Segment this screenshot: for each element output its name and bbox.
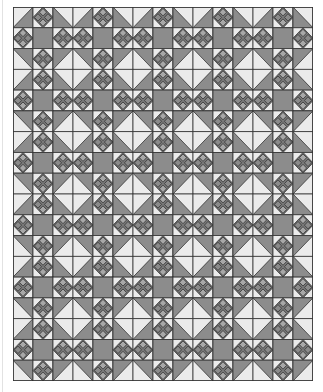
- quilt-cell-edge-diamond: [173, 28, 193, 49]
- quilt-cell-edge-diamond: [153, 69, 173, 90]
- quilt-cell-edge-diamond: [253, 339, 273, 360]
- quilt-cell-edge-diamond: [213, 111, 233, 132]
- quilt-cell-hst-br: [173, 49, 193, 70]
- quilt-cell-hst-tr: [233, 319, 253, 340]
- quilt-cell-hst-tr: [293, 319, 313, 340]
- quilt-cell-edge-diamond: [93, 7, 113, 28]
- quilt-cell-center-square: [153, 339, 173, 360]
- quilt-cell-edge-diamond: [93, 132, 113, 153]
- quilt-cell-edge-diamond: [293, 90, 313, 111]
- quilt-cell-center-square: [213, 339, 233, 360]
- quilt-cell-hst-bl: [73, 173, 93, 194]
- quilt-cell-edge-diamond: [273, 360, 293, 381]
- quilt-cell-hst-tl: [193, 7, 213, 28]
- quilt-cell-edge-diamond: [233, 90, 253, 111]
- quilt-cell-hst-tl: [253, 7, 273, 28]
- quilt-cell-edge-diamond: [213, 49, 233, 70]
- quilt-cell-edge-diamond: [273, 298, 293, 319]
- quilt-cell-edge-diamond: [53, 339, 73, 360]
- quilt-cell-edge-diamond: [153, 236, 173, 257]
- quilt-cell-center-square: [273, 339, 293, 360]
- quilt-cell-hst-br: [113, 360, 133, 381]
- quilt-cell-edge-diamond: [233, 28, 253, 49]
- quilt-cell-edge-diamond: [153, 194, 173, 215]
- quilt-cell-hst-tl: [73, 319, 93, 340]
- quilt-cell-hst-bl: [133, 298, 153, 319]
- quilt-cell-hst-tr: [53, 194, 73, 215]
- quilt-cell-edge-diamond: [273, 194, 293, 215]
- quilt-cell-edge-diamond: [213, 173, 233, 194]
- quilt-cell-hst-br: [233, 111, 253, 132]
- quilt-block: [133, 256, 193, 318]
- quilt-cell-hst-tr: [293, 132, 313, 153]
- quilt-cell-hst-br: [113, 49, 133, 70]
- quilt-cell-hst-br: [293, 173, 313, 194]
- quilt-block: [133, 319, 193, 381]
- quilt-cell-edge-diamond: [33, 256, 53, 277]
- quilt-cell-edge-diamond: [113, 90, 133, 111]
- quilt-cell-edge-diamond: [133, 215, 153, 236]
- quilt-cell-edge-diamond: [253, 28, 273, 49]
- quilt-cell-edge-diamond: [273, 132, 293, 153]
- quilt-cell-edge-diamond: [273, 256, 293, 277]
- quilt-cell-hst-tl: [73, 256, 93, 277]
- quilt-cell-hst-bl: [193, 49, 213, 70]
- quilt-cell-edge-diamond: [153, 256, 173, 277]
- quilt-cell-edge-diamond: [93, 111, 113, 132]
- quilt-cell-hst-tr: [233, 256, 253, 277]
- quilt-cell-hst-bl: [133, 49, 153, 70]
- quilt-cell-hst-bl: [73, 298, 93, 319]
- quilt-cell-hst-tl: [13, 7, 33, 28]
- quilt-cell-hst-tr: [113, 319, 133, 340]
- quilt-cell-hst-tl: [73, 7, 93, 28]
- quilt-cell-edge-diamond: [33, 194, 53, 215]
- quilt-block: [253, 69, 313, 131]
- quilt-cell-hst-tr: [113, 194, 133, 215]
- quilt-cell-hst-tr: [293, 256, 313, 277]
- quilt-cell-edge-diamond: [293, 215, 313, 236]
- quilt-cell-edge-diamond: [293, 339, 313, 360]
- quilt-block: [193, 7, 253, 69]
- quilt-block: [73, 69, 133, 131]
- quilt-cell-hst-br: [233, 236, 253, 257]
- quilt-cell-hst-tr: [233, 132, 253, 153]
- quilt-cell-edge-diamond: [73, 277, 93, 298]
- quilt-cell-edge-diamond: [113, 339, 133, 360]
- quilt-cell-edge-diamond: [293, 152, 313, 173]
- quilt-cell-center-square: [93, 90, 113, 111]
- quilt-cell-hst-tr: [293, 194, 313, 215]
- quilt-cell-hst-tr: [113, 256, 133, 277]
- quilt-block: [13, 256, 73, 318]
- quilt-cell-hst-bl: [13, 298, 33, 319]
- quilt-cell-hst-br: [233, 49, 253, 70]
- quilt-cell-hst-br: [173, 360, 193, 381]
- quilt-cell-edge-diamond: [93, 236, 113, 257]
- quilt-block: [253, 319, 313, 381]
- quilt-cell-edge-diamond: [33, 319, 53, 340]
- quilt-block: [193, 69, 253, 131]
- quilt-cell-center-square: [93, 152, 113, 173]
- quilt-cell-hst-tl: [193, 69, 213, 90]
- quilt-cell-hst-tr: [53, 132, 73, 153]
- quilt-pattern: [13, 7, 313, 381]
- quilt-cell-edge-diamond: [273, 111, 293, 132]
- quilt-cell-hst-bl: [133, 111, 153, 132]
- quilt-cell-hst-tr: [293, 7, 313, 28]
- quilt-cell-edge-diamond: [213, 132, 233, 153]
- quilt-cell-center-square: [213, 152, 233, 173]
- quilt-cell-edge-diamond: [213, 319, 233, 340]
- quilt-cell-edge-diamond: [133, 152, 153, 173]
- quilt-cell-hst-tr: [53, 7, 73, 28]
- quilt-cell-edge-diamond: [93, 69, 113, 90]
- quilt-cell-hst-br: [113, 298, 133, 319]
- quilt-cell-hst-bl: [73, 360, 93, 381]
- quilt-cell-center-square: [273, 215, 293, 236]
- quilt-cell-hst-tl: [73, 194, 93, 215]
- quilt-cell-hst-bl: [193, 236, 213, 257]
- quilt-cell-edge-diamond: [53, 152, 73, 173]
- quilt-block: [13, 7, 73, 69]
- quilt-cell-hst-bl: [253, 236, 273, 257]
- quilt-cell-hst-tl: [193, 132, 213, 153]
- quilt-cell-hst-tr: [173, 132, 193, 153]
- quilt-cell-hst-bl: [133, 360, 153, 381]
